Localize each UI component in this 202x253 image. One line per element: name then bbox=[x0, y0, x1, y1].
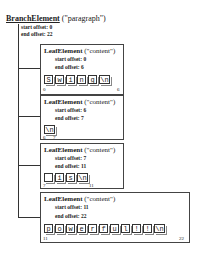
leaf-title: LeafElement ("content") bbox=[44, 98, 115, 106]
branch-name: BranchElement bbox=[6, 14, 60, 23]
leaf-element: LeafElement ("content") start offset: 6 … bbox=[40, 95, 124, 140]
char-cell: S bbox=[44, 75, 53, 84]
leaf-element: LeafElement ("content") start offset: 11… bbox=[40, 192, 190, 243]
leaf-name: LeafElement bbox=[44, 98, 83, 106]
char-cell: f bbox=[99, 224, 108, 233]
leaf-type: ("content") bbox=[84, 47, 115, 55]
char-cell: w bbox=[66, 224, 75, 233]
leaf-type: ("content") bbox=[84, 98, 115, 106]
connector-line bbox=[18, 217, 40, 218]
char-cell: \n bbox=[154, 224, 165, 233]
leaf-start-offset: start offset: 11 bbox=[55, 204, 89, 210]
char-cell: ! bbox=[132, 224, 141, 233]
char-cell: ! bbox=[143, 224, 152, 233]
tree-connector bbox=[18, 24, 19, 218]
char-cell: e bbox=[77, 224, 86, 233]
leaf-type: ("content") bbox=[84, 146, 115, 154]
char-cell: \n bbox=[44, 125, 55, 134]
char-cells: i s \n bbox=[44, 173, 88, 182]
char-cell: i bbox=[66, 75, 75, 84]
end-index: 11 bbox=[89, 183, 94, 188]
char-cell: i bbox=[55, 173, 64, 182]
leaf-title: LeafElement ("content") bbox=[44, 47, 115, 55]
leaf-end-offset: end offset: 6 bbox=[55, 64, 84, 70]
leaf-start-offset: start offset: 6 bbox=[55, 107, 86, 113]
leaf-name: LeafElement bbox=[44, 47, 83, 55]
char-cell: \n bbox=[99, 75, 110, 84]
char-cell: p bbox=[44, 224, 53, 233]
connector-line bbox=[18, 165, 40, 166]
leaf-title: LeafElement ("content") bbox=[44, 195, 115, 203]
end-index: 22 bbox=[179, 236, 184, 241]
leaf-element: LeafElement ("content") start offset: 0 … bbox=[40, 44, 124, 95]
char-cell: l bbox=[121, 224, 130, 233]
leaf-start-offset: start offset: 7 bbox=[55, 155, 86, 161]
char-cell: w bbox=[55, 75, 64, 84]
start-index: 0 bbox=[43, 87, 46, 92]
char-cell: \n bbox=[77, 173, 88, 182]
branch-start-offset: start offset: 0 bbox=[21, 24, 52, 30]
start-index: 6 bbox=[43, 135, 46, 140]
branch-end-offset: end offset: 22 bbox=[21, 31, 52, 37]
char-cell: r bbox=[88, 224, 97, 233]
leaf-name: LeafElement bbox=[44, 146, 83, 154]
leaf-element: LeafElement ("content") start offset: 7 … bbox=[40, 143, 124, 189]
char-cell: u bbox=[110, 224, 119, 233]
connector-line bbox=[18, 116, 40, 117]
leaf-end-offset: end offset: 7 bbox=[55, 115, 84, 121]
char-cell: o bbox=[55, 224, 64, 233]
connector-line bbox=[18, 68, 40, 69]
leaf-title: LeafElement ("content") bbox=[44, 146, 115, 154]
leaf-start-offset: start offset: 0 bbox=[55, 56, 86, 62]
end-index: 7 bbox=[53, 135, 56, 140]
char-cells: p o w e r f u l ! ! \n bbox=[44, 224, 165, 233]
start-index: 11 bbox=[43, 236, 48, 241]
leaf-type: ("content") bbox=[84, 195, 115, 203]
char-cells: \n bbox=[44, 125, 55, 134]
branch-type: ("paragraph") bbox=[62, 14, 106, 23]
char-cell: s bbox=[66, 173, 75, 182]
char-cell: g bbox=[88, 75, 97, 84]
leaf-end-offset: end offset: 11 bbox=[55, 163, 86, 169]
end-index: 6 bbox=[117, 87, 120, 92]
branch-title: BranchElement ("paragraph") bbox=[6, 14, 106, 23]
leaf-name: LeafElement bbox=[44, 195, 83, 203]
char-cells: S w i n g \n bbox=[44, 75, 110, 84]
char-cell: n bbox=[77, 75, 86, 84]
start-index: 7 bbox=[43, 183, 46, 188]
leaf-end-offset: end offset: 22 bbox=[55, 213, 86, 219]
char-cell bbox=[44, 173, 53, 182]
